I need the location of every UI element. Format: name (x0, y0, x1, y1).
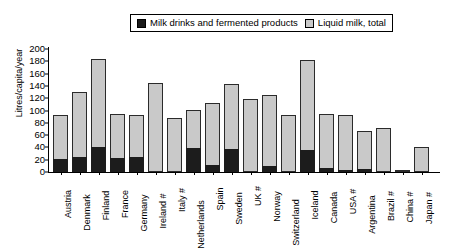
bar-segment-liquid-milk (186, 110, 201, 148)
x-label-cell: Argentina (357, 176, 372, 248)
light-square-marker-icon (305, 19, 314, 28)
bar-segment-liquid-milk (72, 92, 87, 157)
bar-segment-liquid-milk (129, 115, 144, 156)
x-label-cell: France (110, 176, 125, 248)
x-label-cell: Brazil # (376, 176, 391, 248)
x-label-cell: USA # (338, 176, 353, 248)
dark-square-marker-icon (137, 19, 146, 28)
x-label-cell: Finland (91, 176, 106, 248)
x-axis-label: Japan # (422, 160, 437, 192)
bar-segment-liquid-milk (262, 95, 277, 166)
x-label-cell: Iceland (300, 176, 315, 248)
x-label-cell: Germany (129, 176, 144, 248)
x-label-cell: Switzerland (281, 176, 296, 248)
x-label-cell: Ireland # (148, 176, 163, 248)
x-label-cell: Canada (319, 176, 334, 248)
x-label-cell: Sweden (224, 176, 239, 248)
bar-segment-liquid-milk (300, 60, 315, 150)
bar-finland (91, 59, 106, 172)
x-label-cell: Japan # (414, 176, 429, 248)
plot-area: 200180160140120100806040200 (49, 49, 440, 172)
bar-segment-liquid-milk (53, 115, 68, 159)
bar-series-group (49, 49, 440, 172)
x-label-cell: Denmark (72, 176, 87, 248)
y-axis-title: Litres/capita/year (14, 38, 24, 128)
x-label-cell: Norway (262, 176, 277, 248)
chart-legend: Milk drinks and fermented products Liqui… (130, 14, 393, 32)
x-label-cell: Netherlands (186, 176, 201, 248)
x-label-cell: China # (395, 176, 410, 248)
bar-segment-liquid-milk (91, 59, 106, 147)
bar-segment-liquid-milk (110, 114, 125, 158)
x-label-cell: Italy # (167, 176, 182, 248)
x-label-cell: UK # (243, 176, 258, 248)
x-label-cell: Spain (205, 176, 220, 248)
milk-consumption-bar-chart: Milk drinks and fermented products Liqui… (0, 0, 452, 250)
legend-label-milk-drinks: Milk drinks and fermented products (150, 17, 298, 29)
legend-item-liquid-milk: Liquid milk, total (305, 17, 386, 29)
bar-segment-liquid-milk (224, 84, 239, 149)
legend-item-milk-drinks: Milk drinks and fermented products (137, 17, 298, 29)
x-label-cell: Austria (53, 176, 68, 248)
x-axis-category-labels: AustriaDenmarkFinlandFranceGermanyIrelan… (49, 176, 440, 248)
legend-label-liquid-milk: Liquid milk, total (318, 17, 386, 29)
